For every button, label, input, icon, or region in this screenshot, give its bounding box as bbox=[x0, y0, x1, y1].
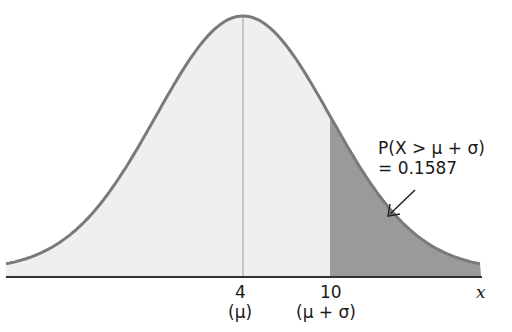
tick-sublabel-sigma: (μ + σ) bbox=[296, 302, 356, 322]
probability-annotation-line2: = 0.1587 bbox=[378, 158, 457, 178]
probability-annotation-line1: P(X > μ + σ) bbox=[378, 138, 485, 158]
x-axis-label: x bbox=[476, 282, 486, 302]
tick-label-mu: 4 bbox=[235, 282, 246, 302]
tick-sublabel-mu: (μ) bbox=[228, 302, 252, 322]
annotation-arrow bbox=[390, 190, 415, 214]
tick-label-sigma: 10 bbox=[320, 282, 342, 302]
